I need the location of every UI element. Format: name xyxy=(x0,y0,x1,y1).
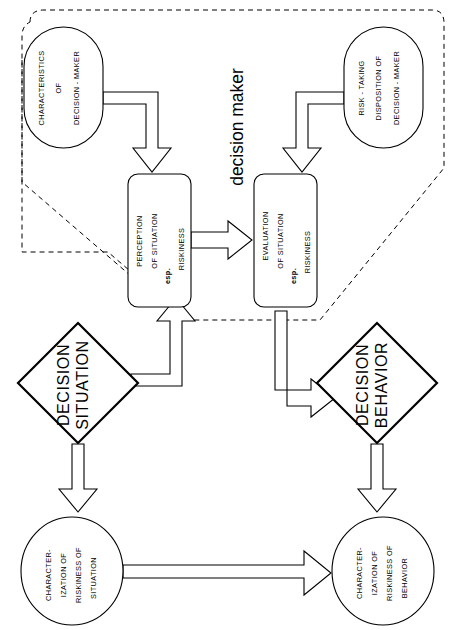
evaluation-line-2: OF SITUATION xyxy=(276,213,285,268)
risk-taking-line-3: DECISION - MAKER xyxy=(392,51,401,125)
edge-char-situation-to-char-behavior xyxy=(123,551,331,595)
evaluation-line-1: EVALUATION xyxy=(261,211,270,260)
node-risk-taking-disposition-of-decision-maker[interactable]: RISK - TAKING DISPOSITION OF DECISION - … xyxy=(344,27,423,148)
decision-behavior-line-1: DECISION xyxy=(354,344,371,426)
evaluation-line-3: esp. xyxy=(289,268,298,284)
decision-process-diagram: CHARACTERISTICS OF DECISION - MAKER RISK… xyxy=(0,0,454,630)
edge-decision-situation-to-perception xyxy=(131,298,195,386)
edge-evaluation-to-decision-behavior xyxy=(275,311,335,417)
edge-risk-taking-to-evaluation xyxy=(283,92,344,172)
edge-characteristics-to-perception xyxy=(103,92,171,172)
perception-line-2: OF SITUATION xyxy=(150,213,159,268)
characteristics-line-2: OF xyxy=(54,82,63,93)
char-situation-line-1: CHARACTER- xyxy=(44,549,53,601)
node-decision-situation[interactable]: DECISION SITUATION xyxy=(18,323,138,443)
perception-line-4: RISKINESS xyxy=(177,228,186,271)
char-behavior-line-2: IZATION OF xyxy=(370,551,379,596)
edge-decision-behavior-to-char-behavior xyxy=(358,444,396,512)
edge-perception-to-evaluation xyxy=(191,221,252,259)
perception-line-3: esp. xyxy=(163,268,172,284)
perception-line-1: PERCEPTION xyxy=(135,215,144,266)
decision-situation-line-2: SITUATION xyxy=(74,340,91,430)
char-situation-line-3: RISKINESS OF xyxy=(74,547,83,603)
node-perception-of-situation[interactable]: PERCEPTION OF SITUATION esp. RISKINESS xyxy=(128,174,191,307)
node-decision-behavior[interactable]: DECISION BEHAVIOR xyxy=(317,323,437,443)
char-situation-line-4: SITUATION xyxy=(89,557,98,599)
evaluation-line-4: RISKINESS xyxy=(303,231,312,274)
diagram-page: CHARACTERISTICS OF DECISION - MAKER RISK… xyxy=(0,0,454,630)
char-situation-line-2: IZATION OF xyxy=(59,553,68,598)
risk-taking-line-2: DISPOSITION OF xyxy=(374,55,383,120)
risk-taking-line-1: RISK - TAKING xyxy=(357,60,366,115)
node-evaluation-of-situation[interactable]: EVALUATION OF SITUATION esp. RISKINESS xyxy=(254,174,317,307)
decision-situation-line-1: DECISION xyxy=(55,344,72,426)
char-behavior-line-3: RISKINESS OF xyxy=(385,545,394,601)
characteristics-line-3: DECISION - MAKER xyxy=(72,51,81,125)
node-characterization-of-riskiness-of-situation[interactable]: CHARACTER- IZATION OF RISKINESS OF SITUA… xyxy=(21,517,123,625)
characteristics-line-1: CHARACTERISTICS xyxy=(37,51,46,126)
char-behavior-line-4: BEHAVIOR xyxy=(400,558,409,598)
node-characterization-of-riskiness-of-behavior[interactable]: CHARACTER- IZATION OF RISKINESS OF BEHAV… xyxy=(332,517,434,625)
decision-maker-region-label: decision maker xyxy=(227,68,247,186)
node-characteristics-of-decision-maker[interactable]: CHARACTERISTICS OF DECISION - MAKER xyxy=(24,27,103,148)
decision-behavior-line-2: BEHAVIOR xyxy=(373,342,390,428)
char-behavior-line-1: CHARACTER- xyxy=(355,547,364,599)
edge-decision-situation-to-char-situation xyxy=(59,444,97,512)
